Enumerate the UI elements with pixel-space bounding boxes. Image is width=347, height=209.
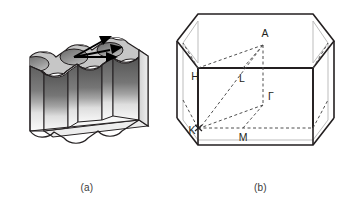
path-Gamma-K (200, 105, 263, 128)
front-scallop-1 (44, 72, 68, 131)
photonic-crystal-slab-drawing (0, 0, 174, 175)
path-A-K (200, 45, 263, 128)
path-A-H (198, 45, 263, 68)
front-face-edges (198, 68, 313, 128)
front-scallop-3 (113, 58, 139, 120)
front-column-2 (68, 65, 78, 128)
panel-b-brillouin-zone: A H L Γ K M (b) (174, 0, 347, 209)
hidden-bottom-back-right (313, 120, 328, 140)
front-column-1 (30, 66, 44, 131)
label-point-Gamma: Γ (268, 90, 274, 102)
caption-b: (b) (174, 182, 347, 193)
symmetry-path-dashed (183, 43, 328, 128)
hidden-edges (183, 21, 328, 140)
path-A-L (243, 45, 263, 68)
caption-a: (a) (0, 182, 174, 193)
hidden-back-left-upper (183, 43, 198, 63)
label-point-L: L (239, 72, 245, 84)
prism-outline (177, 14, 334, 145)
label-point-K: K (188, 124, 195, 136)
hole-notch-top-left (35, 39, 61, 53)
label-point-M: M (239, 131, 248, 143)
path-Gamma-M (243, 105, 263, 128)
label-point-H: H (191, 70, 199, 82)
label-point-A: A (261, 27, 268, 39)
bottom-hexagon-front (177, 118, 334, 145)
brillouin-zone-drawing: A H L Γ K M (174, 0, 347, 175)
hidden-back-right-upper (313, 43, 328, 63)
panel-a-photonic-crystal: (a) (0, 0, 174, 209)
top-hexagon (177, 14, 334, 68)
figure-root: (a) (0, 0, 347, 209)
hole-notch-top-center (72, 32, 98, 46)
slab-right-face (139, 50, 148, 126)
front-scallop-2 (78, 65, 102, 122)
front-column-3 (102, 58, 113, 120)
